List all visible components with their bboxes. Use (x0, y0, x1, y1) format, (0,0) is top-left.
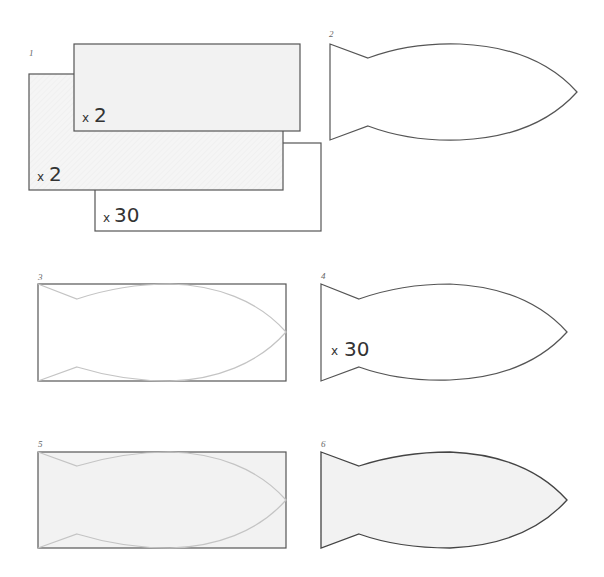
step-4: 4 x 30 (321, 271, 567, 381)
step-5: 5 (38, 439, 286, 548)
fish-outline (321, 284, 567, 381)
fish-outline (330, 44, 577, 140)
quantity-value: 30 (114, 203, 139, 227)
quantity-value: 2 (49, 162, 62, 186)
step-number: 5 (38, 439, 43, 449)
quantity-x-label: x (82, 111, 89, 125)
step-6: 6 (321, 439, 567, 548)
step-number: 2 (329, 29, 334, 39)
step-2: 2 (329, 29, 577, 140)
quantity-x-label: x (331, 344, 338, 358)
step-number: 6 (321, 439, 326, 449)
step-1: 1 x 30 x 2 x 2 (29, 44, 321, 231)
step-number: 4 (321, 271, 326, 281)
step-number: 1 (29, 48, 34, 58)
quantity-x-label: x (103, 211, 110, 225)
quantity-x-label: x (37, 170, 44, 184)
quantity-value: 30 (344, 337, 369, 361)
quantity-value: 2 (94, 103, 107, 127)
step-3: 3 (37, 272, 286, 381)
rectangle-top: x 2 (74, 44, 300, 131)
diagram-canvas: 1 x 30 x 2 x 2 2 3 4 x 30 (0, 0, 604, 577)
rectangle-template (38, 452, 286, 548)
step-number: 3 (37, 272, 43, 282)
fish-cutout (321, 452, 567, 548)
